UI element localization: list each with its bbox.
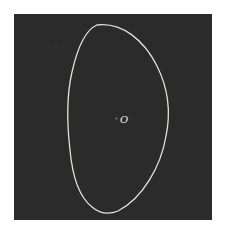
center-point [116, 118, 118, 120]
contour-diagram: O [0, 0, 226, 234]
dark-panel [14, 14, 212, 220]
noise-dot [55, 45, 57, 47]
center-label-o: O [120, 114, 128, 125]
